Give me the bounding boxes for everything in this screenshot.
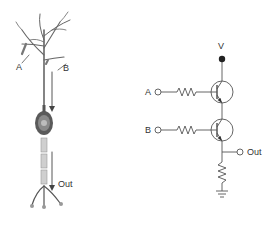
supply-voltage-label: V [218,42,224,51]
diagram-canvas: A B Out [0,0,276,231]
circuit-input-a-label: A [145,88,151,97]
transistor-and-gate-circuit [0,0,276,231]
circuit-output-label: Out [247,148,262,157]
circuit-input-b-label: B [145,126,151,135]
